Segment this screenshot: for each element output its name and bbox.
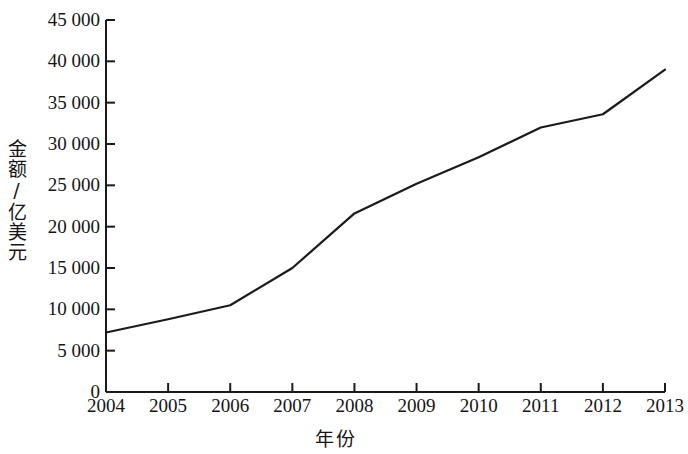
axes xyxy=(106,20,665,392)
x-axis-tick-label: 2011 xyxy=(510,396,572,416)
x-axis-tick-label: 2010 xyxy=(448,396,510,416)
x-axis-tick-label: 2006 xyxy=(199,396,261,416)
x-axis-tick-label: 2007 xyxy=(261,396,323,416)
x-axis-ticks xyxy=(106,383,665,392)
x-axis-tick-label: 2012 xyxy=(572,396,634,416)
x-axis-tick-label: 2005 xyxy=(137,396,199,416)
x-axis-tick-label: 2008 xyxy=(323,396,385,416)
x-axis-tick-label: 2009 xyxy=(386,396,448,416)
data-series-line xyxy=(106,70,665,333)
y-axis-ticks xyxy=(106,20,115,392)
x-axis-tick-label: 2004 xyxy=(75,396,137,416)
x-axis-tick-label: 2013 xyxy=(634,396,688,416)
